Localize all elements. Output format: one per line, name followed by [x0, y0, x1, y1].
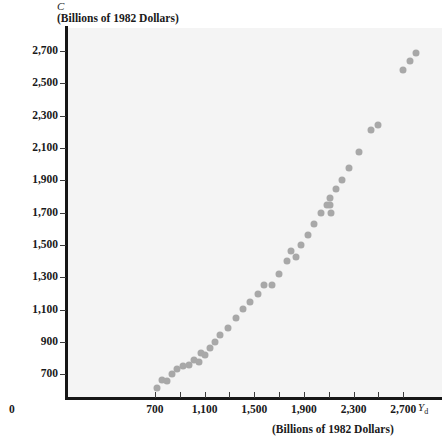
y-axis-tick-label: 900	[41, 335, 58, 347]
data-point	[225, 325, 232, 332]
y-axis-tick	[60, 245, 66, 246]
x-axis-tick-label: 2,300	[341, 403, 367, 415]
x-axis-tick-label: 1,100	[192, 403, 218, 415]
data-point	[247, 298, 254, 305]
x-axis-tick-label: 700	[146, 403, 163, 415]
scatter-plot-figure: C (Billions of 1982 Dollars) 7009001,100…	[0, 0, 442, 441]
x-axis-tick	[354, 392, 355, 398]
data-point	[327, 195, 334, 202]
data-point	[276, 271, 283, 278]
x-axis-symbol-subscript: d	[424, 407, 428, 416]
y-axis-tick-label: 2,700	[32, 44, 58, 56]
x-axis-tick-label: 2,700	[390, 403, 416, 415]
data-point	[333, 186, 340, 193]
y-axis-tick	[60, 116, 66, 117]
data-point	[328, 209, 335, 216]
data-point	[195, 359, 202, 366]
x-axis-tick	[304, 392, 305, 398]
x-axis-minor-tick	[329, 392, 330, 398]
data-point	[207, 345, 214, 352]
data-point	[338, 176, 345, 183]
data-point	[345, 165, 352, 172]
y-axis-tick	[60, 213, 66, 214]
data-point	[407, 57, 414, 64]
y-axis-tick	[60, 51, 66, 52]
y-axis-tick	[60, 310, 66, 311]
y-axis-tick	[60, 374, 66, 375]
y-axis-tick-label: 700	[41, 367, 58, 379]
x-axis-tick-label: 1,900	[291, 403, 317, 415]
data-point	[292, 254, 299, 261]
data-point	[374, 122, 381, 129]
x-axis-tick	[403, 392, 404, 398]
origin-tick-label: 0	[9, 403, 15, 415]
x-axis-minor-tick	[180, 392, 181, 398]
x-axis-symbol: Yd	[418, 401, 428, 416]
y-axis-tick	[60, 342, 66, 343]
data-point	[212, 339, 219, 346]
data-point	[412, 49, 419, 56]
x-axis-minor-tick	[279, 392, 280, 398]
data-point	[318, 209, 325, 216]
data-point	[217, 331, 224, 338]
x-axis-minor-tick	[378, 392, 379, 398]
x-axis-units-label: (Billions of 1982 Dollars)	[272, 423, 394, 435]
data-point	[268, 281, 275, 288]
x-axis-tick	[205, 392, 206, 398]
data-point	[304, 232, 311, 239]
data-point	[232, 314, 239, 321]
y-axis-symbol: C	[57, 0, 65, 12]
x-axis-tick-label: 1,500	[241, 403, 267, 415]
y-axis-tick	[60, 180, 66, 181]
y-axis-tick-label: 1,900	[32, 173, 58, 185]
y-axis-tick-label: 1,700	[32, 206, 58, 218]
data-point	[254, 291, 261, 298]
y-axis-tick	[60, 148, 66, 149]
plot-area	[68, 28, 442, 398]
data-point	[283, 258, 290, 265]
data-point	[202, 351, 209, 358]
data-point	[311, 221, 318, 228]
y-axis-units-label: (Billions of 1982 Dollars)	[57, 12, 179, 24]
y-axis-tick-label: 2,100	[32, 141, 58, 153]
data-point	[400, 66, 407, 73]
data-point	[164, 377, 171, 384]
y-axis-tick-label: 1,100	[32, 303, 58, 315]
x-axis-tick	[155, 392, 156, 398]
y-axis-tick	[60, 83, 66, 84]
data-point	[154, 384, 161, 391]
y-axis-tick	[60, 277, 66, 278]
data-point	[298, 242, 305, 249]
y-axis-tick-label: 2,500	[32, 76, 58, 88]
data-point	[367, 127, 374, 134]
x-axis-tick	[254, 392, 255, 398]
x-axis-minor-tick	[229, 392, 230, 398]
data-point	[356, 149, 363, 156]
y-axis-tick-label: 1,300	[32, 270, 58, 282]
data-point	[326, 202, 333, 209]
data-point	[239, 305, 246, 312]
y-axis-tick-label: 2,300	[32, 109, 58, 121]
y-axis-tick-label: 1,500	[32, 238, 58, 250]
data-point	[261, 281, 268, 288]
